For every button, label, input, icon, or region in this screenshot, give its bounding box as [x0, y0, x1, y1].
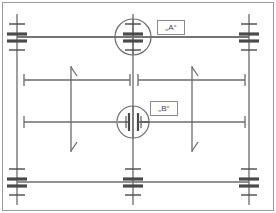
- technical-drawing-svg: [0, 0, 276, 213]
- dim-vertical-left: [71, 66, 77, 152]
- detail-label-b: „B“: [150, 101, 178, 116]
- detail-callout-b: [117, 106, 149, 138]
- arrowhead-up-left: [71, 67, 77, 76]
- arrowhead-up-right: [192, 67, 198, 76]
- dim-lower-left: [24, 116, 126, 128]
- detail-callout-a: [17, 19, 249, 55]
- detail-label-a: „A“: [157, 20, 185, 35]
- diagram-canvas: „A“ „B“: [0, 0, 276, 213]
- dim-lower-right: [141, 116, 245, 128]
- arrowhead-down-right: [192, 142, 198, 151]
- arrowhead-down-left: [71, 142, 77, 151]
- dim-vertical-right: [192, 66, 198, 152]
